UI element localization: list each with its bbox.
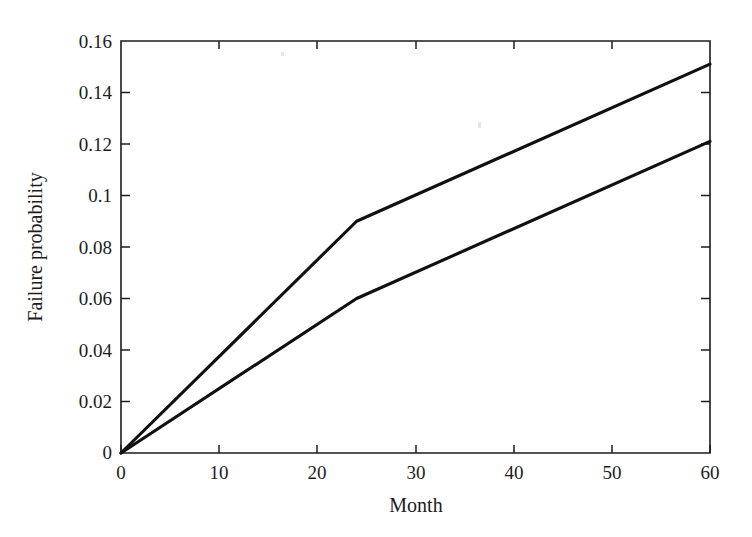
x-tick-label: 20 [308,462,327,483]
y-axis-title: Failure probability [24,172,47,321]
y-axis-ticks [121,93,710,402]
y-tick-label: 0.02 [79,391,112,412]
y-tick-label: 0.1 [88,185,112,206]
x-tick-label: 30 [407,462,426,483]
x-axis-title: Month [389,494,442,516]
x-tick-label: 50 [603,462,622,483]
chart-figure: 0 0.02 0.04 0.06 0.08 0.1 0.12 0.14 0.16… [0,0,752,537]
y-tick-label: 0.12 [79,134,112,155]
y-tick-label: 0.06 [79,288,112,309]
y-tick-label: 0.04 [79,340,113,361]
scan-speck [281,52,284,56]
x-tick-label: 40 [505,462,524,483]
scan-speck [478,122,481,128]
y-tick-label: 0.16 [79,31,112,52]
x-tick-label: 10 [210,462,229,483]
data-line-lower [121,141,710,453]
line-chart-plot: 0 0.02 0.04 0.06 0.08 0.1 0.12 0.14 0.16… [0,0,752,537]
y-tick-labels: 0 0.02 0.04 0.06 0.08 0.1 0.12 0.14 0.16 [79,31,113,463]
series-lower-curve [121,141,710,453]
x-tick-labels: 0 10 20 30 40 50 60 [116,462,719,483]
x-tick-label: 60 [701,462,720,483]
y-tick-label: 0.08 [79,237,112,258]
y-tick-label: 0.14 [79,82,113,103]
y-tick-label: 0 [103,442,113,463]
x-tick-label: 0 [116,462,126,483]
